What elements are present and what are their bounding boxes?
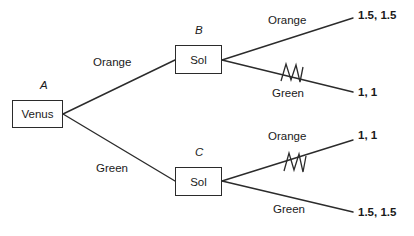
node-box-venus: Venus [12, 100, 63, 128]
game-tree-diagram: A Venus B Sol C Sol Orange Green Orange … [0, 0, 414, 236]
branch-label-a-green: Green [96, 163, 128, 175]
payoff-b-orange: 1.5, 1.5 [358, 9, 396, 21]
node-box-venus-text: Venus [22, 108, 54, 120]
node-box-sol-b: Sol [175, 45, 222, 74]
prune-zigzag-icon-b-green [281, 64, 303, 82]
node-label-a: A [40, 79, 48, 91]
node-label-b: B [195, 24, 203, 36]
payoff-c-green: 1.5, 1.5 [358, 206, 396, 218]
branch-label-b-green: Green [272, 88, 304, 100]
node-box-sol-c-text: Sol [190, 176, 207, 188]
branch-label-a-orange: Orange [93, 57, 131, 69]
branch-label-c-orange: Orange [268, 131, 306, 143]
payoff-c-orange: 1, 1 [358, 129, 377, 141]
node-label-c: C [195, 146, 203, 158]
payoff-b-green: 1, 1 [358, 86, 377, 98]
branch-label-b-orange: Orange [268, 15, 306, 27]
node-box-sol-c: Sol [175, 167, 222, 196]
branch-label-c-green: Green [273, 204, 305, 216]
node-box-sol-b-text: Sol [190, 54, 207, 66]
